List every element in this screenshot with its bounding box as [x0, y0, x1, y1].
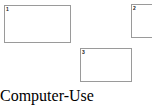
bounding-box-3-label: 3 [82, 49, 85, 55]
bounding-box-1-label: 1 [6, 6, 9, 12]
bounding-box-1[interactable]: 1 [4, 5, 71, 43]
bounding-box-3[interactable]: 3 [80, 48, 132, 82]
annotation-canvas: 1 2 3 [0, 0, 152, 87]
bounding-box-2[interactable]: 2 [131, 4, 152, 38]
bounding-box-2-label: 2 [133, 5, 136, 11]
